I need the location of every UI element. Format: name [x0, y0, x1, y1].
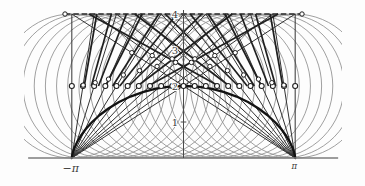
chord-marker: [173, 60, 177, 64]
chord-marker: [241, 73, 245, 77]
center-marker: [114, 84, 119, 89]
top-line-end-marker: [63, 12, 67, 16]
center-marker: [147, 84, 152, 89]
chord-marker: [270, 80, 274, 84]
center-marker: [192, 84, 197, 89]
center-marker: [248, 84, 253, 89]
center-marker: [103, 84, 108, 89]
chord-marker: [93, 80, 97, 84]
chord-marker: [170, 57, 174, 61]
center-marker: [69, 84, 74, 89]
center-marker: [293, 84, 298, 89]
center-markers: [69, 84, 297, 89]
cycloid-figure-canvas: 1234−ππ: [0, 0, 365, 186]
chord-marker: [208, 64, 212, 68]
center-marker: [203, 84, 208, 89]
x-tick-label: −π: [63, 162, 80, 175]
cycloid-figure: 1234−ππ: [0, 0, 365, 186]
center-marker: [259, 84, 264, 89]
center-marker: [226, 84, 231, 89]
center-marker: [136, 84, 141, 89]
chord-marker: [121, 73, 125, 77]
chord-marker: [155, 64, 159, 68]
chord-marker: [213, 53, 217, 57]
top-line-end-marker: [300, 12, 304, 16]
chord-marker: [256, 77, 260, 81]
y-tick-label: 2: [172, 81, 178, 92]
chord-marker: [189, 60, 193, 64]
chord-marker: [130, 50, 134, 54]
center-marker: [181, 84, 186, 89]
chord-marker: [233, 50, 237, 54]
chord-marker: [137, 68, 141, 72]
chord-marker: [282, 83, 286, 87]
y-tick-label: 4: [172, 9, 178, 20]
center-marker: [215, 84, 220, 89]
center-marker: [125, 84, 130, 89]
center-marker: [159, 84, 164, 89]
x-tick-label: π: [290, 161, 297, 171]
chord-marker: [106, 77, 110, 81]
chord-marker: [150, 53, 154, 57]
chord-marker: [193, 57, 197, 61]
y-tick-label: 3: [172, 45, 178, 56]
chord-marker: [225, 68, 229, 72]
chord-marker: [81, 83, 85, 87]
y-tick-label: 1: [172, 117, 178, 128]
center-marker: [237, 84, 242, 89]
